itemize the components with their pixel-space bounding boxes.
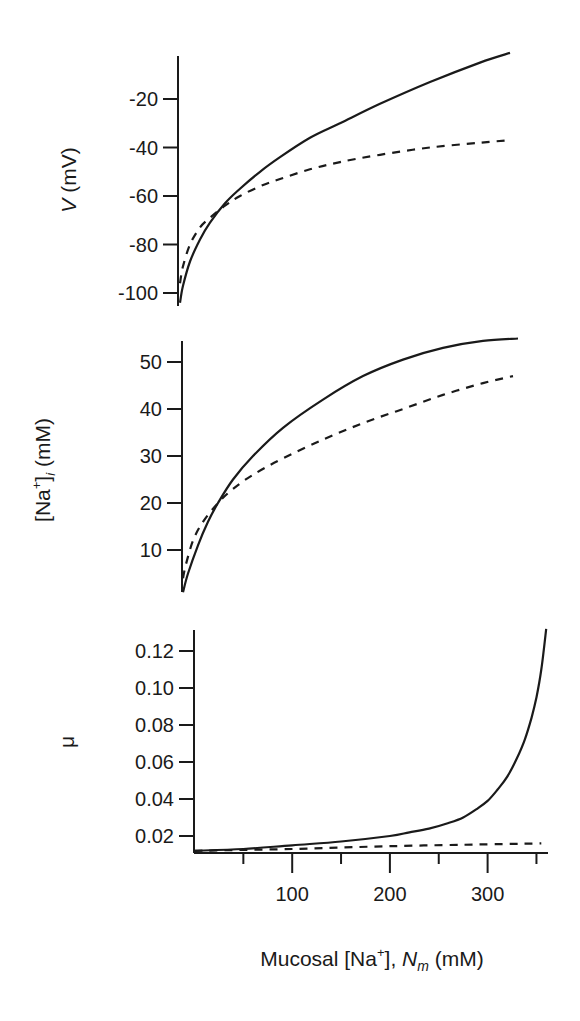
y-tick-label: 0.02 (135, 825, 174, 847)
ylabel-middle-open: [Na (31, 489, 54, 522)
y-tick-label: 0.06 (135, 751, 174, 773)
solid-curve (180, 53, 510, 303)
y-tick-label: -80 (129, 234, 158, 256)
ylabel-middle: [Na+]i (mM) (29, 418, 58, 522)
ylabel-top-unit: (mV) (57, 147, 80, 198)
panel-membrane-potential: -20-40-60-80-100 (118, 53, 510, 306)
solid-curve (183, 339, 518, 593)
y-tick-label: 0.12 (135, 640, 174, 662)
dashed-curve (183, 376, 513, 578)
ylabel-middle-unit: (mM) (31, 418, 54, 473)
y-tick-label: -60 (129, 185, 158, 207)
y-tick-label: 10 (140, 539, 162, 561)
figure: -20-40-60-80-100 5040302010 0.120.100.08… (0, 0, 580, 1021)
x-tick-label: 300 (471, 883, 504, 905)
xlabel-sup: + (377, 945, 385, 960)
y-tick-label: -100 (118, 282, 158, 304)
y-tick-label: 50 (140, 351, 162, 373)
y-tick-label: 0.04 (135, 788, 174, 810)
ylabel-bottom: μ (55, 736, 78, 748)
xlabel: Mucosal [Na+], Nm (mM) (260, 945, 483, 974)
y-tick-label: 20 (140, 492, 162, 514)
y-tick-label: -40 (129, 137, 158, 159)
y-tick-label: 30 (140, 445, 162, 467)
y-tick-label: 0.08 (135, 714, 174, 736)
dashed-curve (195, 843, 542, 850)
xlabel-var: N (402, 947, 418, 970)
xlabel-unit: (mM) (429, 947, 484, 970)
panel-mu: 0.120.100.080.060.040.02100200300 (135, 629, 548, 905)
xlabel-pre: Mucosal [Na (260, 947, 377, 970)
panel-intracellular-sodium: 5040302010 (140, 339, 518, 593)
xlabel-mid: ], (385, 947, 403, 970)
ylabel-top: V (mV) (57, 147, 80, 212)
x-tick-label: 200 (373, 883, 406, 905)
x-tick-label: 100 (276, 883, 309, 905)
y-tick-label: -20 (129, 88, 158, 110)
y-tick-label: 40 (140, 398, 162, 420)
ylabel-middle-sup: + (29, 482, 44, 490)
dashed-curve (180, 140, 510, 283)
y-tick-label: 0.10 (135, 677, 174, 699)
solid-curve (195, 629, 547, 851)
xlabel-sub: m (417, 958, 429, 974)
